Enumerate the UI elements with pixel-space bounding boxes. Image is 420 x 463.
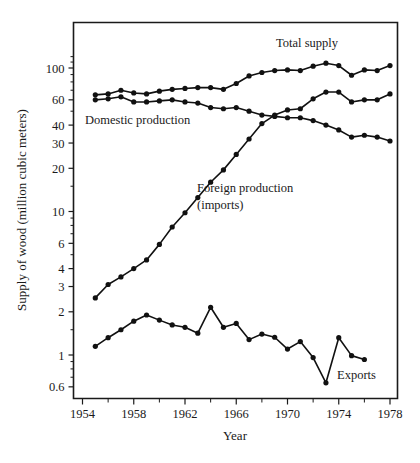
data-point [221,87,226,92]
data-point [170,97,175,102]
annotation-total-supply: Total supply [276,36,339,50]
data-point [323,123,328,128]
data-point [272,68,277,73]
data-point [144,257,149,262]
data-point [311,355,316,360]
data-point [336,89,341,94]
data-point [208,85,213,90]
data-point [144,91,149,96]
data-point [336,335,341,340]
y-tick-label-40: 40 [52,119,65,133]
data-point [311,64,316,69]
data-point [259,121,264,126]
data-point [182,210,187,215]
data-point [323,89,328,94]
data-point [349,99,354,104]
data-point [349,134,354,139]
data-point [106,91,111,96]
data-point [298,115,303,120]
data-point [362,133,367,138]
data-point [157,89,162,94]
data-point [118,94,123,99]
y-tick-label-3: 3 [58,280,64,294]
data-point [349,73,354,78]
data-point [323,380,328,385]
data-point [362,357,367,362]
x-tick-label-1954: 1954 [70,407,96,421]
data-point [221,167,226,172]
data-point [182,325,187,330]
data-point [234,81,239,86]
data-point [208,105,213,110]
data-point [362,67,367,72]
data-point [259,70,264,75]
data-point [259,331,264,336]
data-point [387,63,392,68]
y-tick-label-0.6: 0.6 [49,380,65,394]
x-axis-title: Year [223,428,248,443]
y-axis-title: Supply of wood (million cubic meters) [14,109,29,311]
data-point [157,242,162,247]
data-point [311,96,316,101]
data-point [118,274,123,279]
y-tick-label-20: 20 [52,162,65,176]
data-point [170,87,175,92]
data-point [272,335,277,340]
annotation-exports: Exports [337,368,376,382]
data-point [182,86,187,91]
data-point [298,68,303,73]
data-point [157,98,162,103]
chart-figure: 0.6123461020304060100 195419581962196619… [0,0,420,463]
y-tick-label-6: 6 [58,237,64,251]
data-point [298,339,303,344]
data-point [234,152,239,157]
data-point [93,97,98,102]
data-point [336,127,341,132]
data-point [170,224,175,229]
y-tick-label-10: 10 [52,205,65,219]
data-point [221,106,226,111]
y-tick-label-1: 1 [58,349,64,363]
data-point [375,97,380,102]
data-point [144,312,149,317]
data-point [208,305,213,310]
data-point [93,92,98,97]
data-point [387,138,392,143]
x-tick-label-1962: 1962 [173,407,198,421]
x-tick-label-1978: 1978 [378,407,403,421]
y-tick-label-4: 4 [58,262,65,276]
data-point [131,266,136,271]
data-point [106,335,111,340]
annotation-foreign-production-line1: Foreign production [197,181,294,195]
y-tick-label-30: 30 [52,137,65,151]
data-point [195,85,200,90]
x-tick-label-1974: 1974 [326,407,352,421]
data-point [221,325,226,330]
data-point [349,353,354,358]
data-point [131,319,136,324]
data-point [157,318,162,323]
data-point [246,337,251,342]
x-tick-label-1970: 1970 [275,407,300,421]
data-point [246,109,251,114]
data-point [272,112,277,117]
data-point [375,134,380,139]
data-point [259,112,264,117]
data-point [195,100,200,105]
data-point [387,91,392,96]
data-point [93,344,98,349]
data-point [298,106,303,111]
data-point [195,331,200,336]
data-point [106,96,111,101]
data-point [118,327,123,332]
y-tick-label-100: 100 [46,62,65,76]
data-point [131,90,136,95]
data-point [246,136,251,141]
line-chart-svg: 0.6123461020304060100 195419581962196619… [0,0,420,463]
data-point [311,118,316,123]
data-point [234,105,239,110]
y-tick-label-60: 60 [52,93,65,107]
data-point [182,99,187,104]
data-point [93,295,98,300]
data-point [336,63,341,68]
